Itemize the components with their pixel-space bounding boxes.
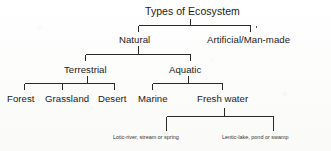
ecosystem-tree-diagram: Types of Ecosystem Natural Artificial/Ma… bbox=[0, 0, 331, 151]
node-forest: Forest bbox=[7, 94, 35, 104]
node-marine: Marine bbox=[138, 94, 168, 104]
scan-speck bbox=[256, 26, 257, 28]
node-aquatic: Aquatic bbox=[169, 65, 201, 75]
connector-root-to-level2 bbox=[139, 26, 251, 33]
connector-freshwater-to-level5 bbox=[167, 117, 274, 132]
node-desert: Desert bbox=[98, 94, 127, 104]
node-types-of-ecosystem: Types of Ecosystem bbox=[145, 6, 240, 17]
node-fresh-water: Fresh water bbox=[197, 94, 248, 104]
connector-aquatic-to-level4 bbox=[153, 84, 223, 91]
node-terrestrial: Terrestrial bbox=[64, 65, 107, 75]
tree-connector-lines bbox=[0, 0, 331, 151]
node-lotic-river-stream-or-spring: Lotic-river, stream or spring bbox=[113, 135, 179, 140]
node-lentic-lake-pond-or-swamp: Lentic-lake, pond or swamp bbox=[222, 135, 288, 140]
connector-natural-to-level3 bbox=[86, 55, 191, 62]
node-grassland: Grassland bbox=[45, 94, 89, 104]
node-natural: Natural bbox=[119, 35, 150, 45]
node-artificial-man-made: Artificial/Man-made bbox=[207, 35, 290, 45]
connector-terrestrial-to-level4 bbox=[25, 84, 115, 91]
